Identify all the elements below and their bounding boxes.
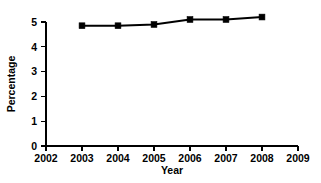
- x-tick-label-2009: 2009: [286, 152, 310, 164]
- x-tick-label-2006: 2006: [178, 152, 202, 164]
- x-tick-label-2003: 2003: [70, 152, 94, 164]
- y-tick-label-2: 2: [31, 90, 37, 102]
- y-tick-label-5: 5: [31, 16, 37, 28]
- x-tick-label-2002: 2002: [34, 152, 58, 164]
- line-chart: 20022003200420052006200720082009 012345 …: [0, 0, 321, 183]
- chart-plot-area: 20022003200420052006200720082009 012345 …: [0, 0, 321, 183]
- x-tick-label-2008: 2008: [250, 152, 274, 164]
- data-point-2006: [187, 17, 193, 23]
- y-tick-label-0: 0: [31, 140, 37, 152]
- x-tick-label-2007: 2007: [214, 152, 238, 164]
- y-tick-label-1: 1: [31, 115, 37, 127]
- data-point-2003: [79, 23, 85, 29]
- x-tick-label-2005: 2005: [142, 152, 166, 164]
- y-tick-label-4: 4: [31, 41, 37, 53]
- data-point-2008: [259, 14, 265, 20]
- y-axis-tick-labels: 012345: [31, 16, 37, 152]
- data-point-2004: [115, 23, 121, 29]
- x-axis-title: Year: [161, 164, 183, 176]
- data-point-2007: [223, 17, 229, 23]
- x-tick-label-2004: 2004: [106, 152, 130, 164]
- y-axis-title: Percentage: [5, 56, 17, 113]
- x-axis-tick-labels: 20022003200420052006200720082009: [34, 152, 310, 164]
- data-series-percentage: [79, 14, 265, 28]
- y-tick-label-3: 3: [31, 65, 37, 77]
- data-point-2005: [151, 22, 157, 28]
- series-line-percentage: [82, 17, 262, 26]
- axes: [46, 22, 298, 146]
